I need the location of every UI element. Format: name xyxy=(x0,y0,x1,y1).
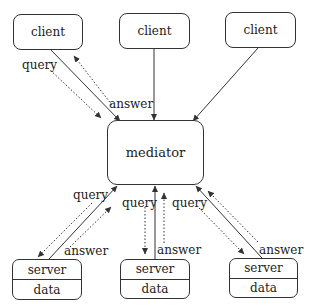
server-node-1: server data xyxy=(12,259,82,300)
server-label: server xyxy=(121,260,189,280)
client-node-2: client xyxy=(119,13,190,49)
edge-label-answer: answer xyxy=(64,245,108,257)
mediator-architecture-diagram: client client client mediator server dat… xyxy=(0,0,311,305)
client-node-3: client xyxy=(225,12,296,48)
edge-label-answer: answer xyxy=(109,98,153,110)
mediator-label: mediator xyxy=(126,145,186,160)
edge-label-query: query xyxy=(122,197,157,209)
data-store-label: data xyxy=(230,279,297,298)
data-store-label: data xyxy=(13,280,81,299)
server-label: server xyxy=(13,260,81,280)
edge-label-answer: answer xyxy=(157,244,201,256)
edge-label-query: query xyxy=(73,189,108,201)
client-node-1: client xyxy=(13,14,83,50)
data-store-label: data xyxy=(121,280,189,299)
edge-client3-mediator xyxy=(193,48,258,121)
edge-label-answer: answer xyxy=(259,244,303,256)
edge-server1-answer xyxy=(70,207,111,247)
edge-server3-answer xyxy=(208,191,258,242)
edge-label-query: query xyxy=(172,197,207,209)
server-label: server xyxy=(230,259,297,279)
client-label: client xyxy=(137,24,171,38)
client-label: client xyxy=(243,23,277,37)
edge-label-query: query xyxy=(22,59,57,71)
client-label: client xyxy=(31,25,65,39)
server-node-2: server data xyxy=(120,259,190,299)
mediator-node: mediator xyxy=(107,120,204,185)
server-node-3: server data xyxy=(229,258,298,298)
